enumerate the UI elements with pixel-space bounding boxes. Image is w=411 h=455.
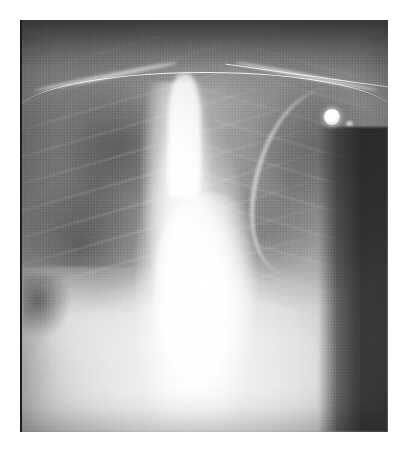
chest-xray-image[interactable] bbox=[22, 20, 388, 432]
page-canvas: Chest radiograph bbox=[0, 0, 411, 455]
page-title: Chest radiograph bbox=[0, 21, 1, 22]
film-edge-vignette bbox=[22, 20, 388, 432]
